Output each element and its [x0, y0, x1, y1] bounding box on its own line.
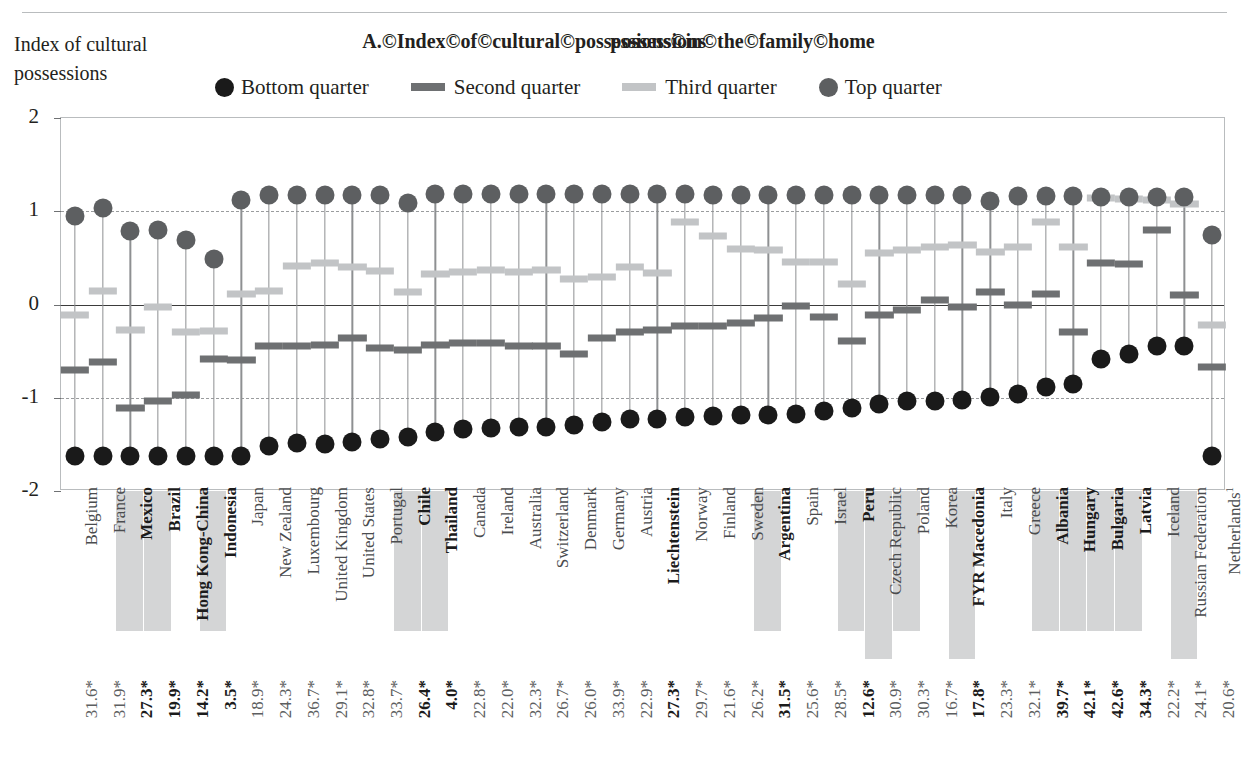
top-quarter-marker[interactable]: [620, 185, 639, 204]
second-quarter-marker[interactable]: [1059, 329, 1087, 336]
bottom-quarter-marker[interactable]: [898, 392, 917, 411]
top-quarter-marker[interactable]: [1064, 187, 1083, 206]
third-quarter-marker[interactable]: [643, 269, 671, 276]
third-quarter-marker[interactable]: [671, 219, 699, 226]
legend-item-bottom-quarter[interactable]: Bottom quarter: [215, 75, 369, 100]
second-quarter-marker[interactable]: [227, 356, 255, 363]
second-quarter-marker[interactable]: [726, 320, 754, 327]
third-quarter-marker[interactable]: [505, 268, 533, 275]
third-quarter-marker[interactable]: [810, 258, 838, 265]
bottom-quarter-marker[interactable]: [260, 437, 279, 456]
top-quarter-marker[interactable]: [398, 193, 417, 212]
second-quarter-marker[interactable]: [449, 339, 477, 346]
second-quarter-marker[interactable]: [144, 397, 172, 404]
top-quarter-marker[interactable]: [537, 185, 556, 204]
bottom-quarter-marker[interactable]: [232, 446, 251, 465]
top-quarter-marker[interactable]: [93, 198, 112, 217]
third-quarter-marker[interactable]: [144, 304, 172, 311]
top-quarter-marker[interactable]: [981, 191, 1000, 210]
second-quarter-marker[interactable]: [1170, 292, 1198, 299]
top-quarter-marker[interactable]: [426, 184, 445, 203]
bottom-quarter-marker[interactable]: [731, 406, 750, 425]
top-quarter-marker[interactable]: [65, 206, 84, 225]
bottom-quarter-marker[interactable]: [287, 433, 306, 452]
third-quarter-marker[interactable]: [116, 326, 144, 333]
bottom-quarter-marker[interactable]: [481, 418, 500, 437]
second-quarter-marker[interactable]: [394, 347, 422, 354]
top-quarter-marker[interactable]: [648, 185, 667, 204]
third-quarter-marker[interactable]: [976, 249, 1004, 256]
second-quarter-marker[interactable]: [1198, 363, 1226, 370]
second-quarter-marker[interactable]: [421, 341, 449, 348]
third-quarter-marker[interactable]: [61, 311, 89, 318]
top-quarter-marker[interactable]: [565, 185, 584, 204]
bottom-quarter-marker[interactable]: [149, 447, 168, 466]
bottom-quarter-marker[interactable]: [398, 427, 417, 446]
bottom-quarter-marker[interactable]: [426, 423, 445, 442]
third-quarter-marker[interactable]: [172, 328, 200, 335]
third-quarter-marker[interactable]: [477, 266, 505, 273]
second-quarter-marker[interactable]: [116, 405, 144, 412]
second-quarter-marker[interactable]: [199, 355, 227, 362]
bottom-quarter-marker[interactable]: [1008, 385, 1027, 404]
top-quarter-marker[interactable]: [509, 185, 528, 204]
bottom-quarter-marker[interactable]: [842, 399, 861, 418]
bottom-quarter-marker[interactable]: [1036, 378, 1055, 397]
bottom-quarter-marker[interactable]: [814, 401, 833, 420]
second-quarter-marker[interactable]: [172, 391, 200, 398]
second-quarter-marker[interactable]: [615, 328, 643, 335]
bottom-quarter-marker[interactable]: [509, 417, 528, 436]
bottom-quarter-marker[interactable]: [1175, 337, 1194, 356]
third-quarter-marker[interactable]: [782, 258, 810, 265]
second-quarter-marker[interactable]: [1004, 302, 1032, 309]
third-quarter-marker[interactable]: [921, 243, 949, 250]
top-quarter-marker[interactable]: [731, 186, 750, 205]
bottom-quarter-marker[interactable]: [565, 415, 584, 434]
top-quarter-marker[interactable]: [481, 185, 500, 204]
third-quarter-marker[interactable]: [88, 287, 116, 294]
third-quarter-marker[interactable]: [283, 263, 311, 270]
third-quarter-marker[interactable]: [1004, 243, 1032, 250]
bottom-quarter-marker[interactable]: [121, 447, 140, 466]
third-quarter-marker[interactable]: [948, 241, 976, 248]
top-quarter-marker[interactable]: [1203, 225, 1222, 244]
second-quarter-marker[interactable]: [88, 359, 116, 366]
second-quarter-marker[interactable]: [477, 339, 505, 346]
second-quarter-marker[interactable]: [560, 350, 588, 357]
top-quarter-marker[interactable]: [842, 186, 861, 205]
top-quarter-marker[interactable]: [1092, 188, 1111, 207]
bottom-quarter-marker[interactable]: [620, 410, 639, 429]
top-quarter-marker[interactable]: [287, 186, 306, 205]
second-quarter-marker[interactable]: [366, 345, 394, 352]
third-quarter-marker[interactable]: [255, 288, 283, 295]
legend-item-third-quarter[interactable]: Third quarter: [622, 75, 776, 100]
third-quarter-marker[interactable]: [532, 266, 560, 273]
third-quarter-marker[interactable]: [421, 270, 449, 277]
top-quarter-marker[interactable]: [1036, 187, 1055, 206]
bottom-quarter-marker[interactable]: [1147, 337, 1166, 356]
top-quarter-marker[interactable]: [176, 231, 195, 250]
third-quarter-marker[interactable]: [893, 247, 921, 254]
top-quarter-marker[interactable]: [343, 186, 362, 205]
top-quarter-marker[interactable]: [454, 185, 473, 204]
second-quarter-marker[interactable]: [976, 289, 1004, 296]
top-quarter-marker[interactable]: [1175, 188, 1194, 207]
second-quarter-marker[interactable]: [255, 342, 283, 349]
top-quarter-marker[interactable]: [204, 249, 223, 268]
bottom-quarter-marker[interactable]: [315, 435, 334, 454]
third-quarter-marker[interactable]: [1059, 243, 1087, 250]
top-quarter-marker[interactable]: [260, 186, 279, 205]
top-quarter-marker[interactable]: [676, 185, 695, 204]
top-quarter-marker[interactable]: [149, 220, 168, 239]
bottom-quarter-marker[interactable]: [93, 446, 112, 465]
second-quarter-marker[interactable]: [505, 342, 533, 349]
bottom-quarter-marker[interactable]: [870, 395, 889, 414]
bottom-quarter-marker[interactable]: [454, 420, 473, 439]
third-quarter-marker[interactable]: [338, 264, 366, 271]
top-quarter-marker[interactable]: [925, 186, 944, 205]
bottom-quarter-marker[interactable]: [648, 410, 667, 429]
third-quarter-marker[interactable]: [394, 289, 422, 296]
third-quarter-marker[interactable]: [588, 274, 616, 281]
top-quarter-marker[interactable]: [592, 185, 611, 204]
top-quarter-marker[interactable]: [1008, 187, 1027, 206]
